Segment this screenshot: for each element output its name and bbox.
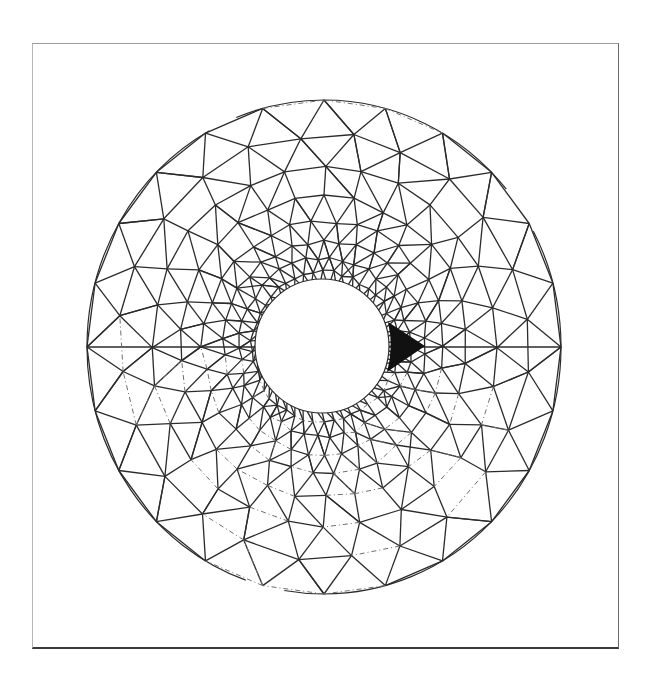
mesh-diagram: [0, 0, 651, 687]
circular-hole: [255, 279, 389, 413]
crack-wedge: [387, 322, 425, 372]
